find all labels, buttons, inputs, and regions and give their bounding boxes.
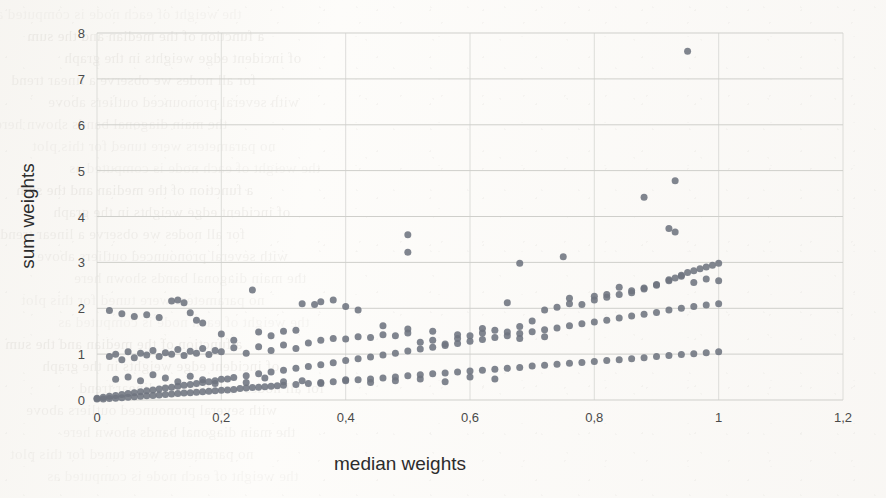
data-point (292, 365, 299, 372)
data-point (199, 345, 206, 352)
data-point (491, 375, 498, 382)
data-point (417, 375, 424, 382)
data-point (392, 377, 399, 384)
data-point (653, 309, 660, 316)
data-point (404, 372, 411, 379)
data-point (249, 286, 256, 293)
data-point (690, 303, 697, 310)
data-point (143, 352, 150, 359)
data-point (367, 379, 374, 386)
data-point (131, 313, 138, 320)
data-point (529, 328, 536, 335)
y-tick-label: 7 (78, 72, 85, 87)
data-point (149, 371, 156, 378)
data-point (330, 359, 337, 366)
data-point (218, 348, 225, 355)
y-axis-tick-labels: 012345678 (78, 26, 85, 408)
data-point (187, 381, 194, 388)
data-point (379, 331, 386, 338)
data-point (665, 225, 672, 232)
data-point (690, 350, 697, 357)
data-point (641, 354, 648, 361)
data-point (355, 355, 362, 362)
data-point (112, 376, 119, 383)
data-point (690, 267, 697, 274)
data-point (305, 380, 312, 387)
y-axis-title: sum weights (17, 163, 38, 269)
x-tick-label: 0 (93, 410, 100, 425)
data-points (94, 48, 723, 403)
data-point (118, 391, 125, 398)
data-point (566, 360, 573, 367)
data-point (566, 322, 573, 329)
data-point (566, 295, 573, 302)
data-point (205, 378, 212, 385)
data-point (678, 351, 685, 358)
data-point (125, 374, 132, 381)
data-point (454, 369, 461, 376)
chart-svg: 00,20,40,60,811,2 012345678 median weigh… (0, 0, 886, 498)
data-point (168, 384, 175, 391)
y-tick-label: 1 (78, 347, 85, 362)
data-point (479, 367, 486, 374)
data-point (268, 332, 275, 339)
data-point (187, 373, 194, 380)
data-point (168, 391, 175, 398)
data-point (479, 325, 486, 332)
data-point (504, 299, 511, 306)
data-point (292, 381, 299, 388)
data-point (429, 370, 436, 377)
data-point (187, 309, 194, 316)
data-point (603, 357, 610, 364)
data-point (255, 343, 262, 350)
data-point (280, 378, 287, 385)
data-point (131, 389, 138, 396)
x-tick-label: 0,6 (461, 410, 479, 425)
data-point (224, 375, 231, 382)
data-point (404, 249, 411, 256)
data-point (199, 319, 206, 326)
y-tick-label: 0 (78, 393, 85, 408)
data-point (330, 296, 337, 303)
series-outliers (404, 48, 691, 267)
data-point (429, 337, 436, 344)
data-point (392, 332, 399, 339)
data-point (193, 317, 200, 324)
data-point (641, 285, 648, 292)
data-point (554, 304, 561, 311)
data-point (367, 353, 374, 360)
data-point (541, 326, 548, 333)
data-point (317, 380, 324, 387)
data-point (156, 314, 163, 321)
data-point (554, 361, 561, 368)
data-point (653, 353, 660, 360)
data-point (467, 368, 474, 375)
data-point (678, 305, 685, 312)
data-point (628, 313, 635, 320)
data-point (703, 302, 710, 309)
data-point (218, 376, 225, 383)
y-tick-label: 5 (78, 164, 85, 179)
data-point (149, 347, 156, 354)
data-point (255, 384, 262, 391)
data-point (125, 390, 132, 397)
data-point (174, 296, 181, 303)
data-point (715, 277, 722, 284)
data-point (355, 307, 362, 314)
data-point (156, 385, 163, 392)
data-point (112, 392, 119, 399)
data-point (218, 330, 225, 337)
data-point (355, 333, 362, 340)
data-point (628, 355, 635, 362)
data-point (367, 334, 374, 341)
data-point (342, 357, 349, 364)
data-point (274, 382, 281, 389)
data-point (616, 356, 623, 363)
data-point (715, 260, 722, 267)
data-point (715, 348, 722, 355)
data-point (684, 48, 691, 55)
data-point (578, 359, 585, 366)
data-point (292, 345, 299, 352)
data-point (162, 374, 169, 381)
data-point (690, 279, 697, 286)
